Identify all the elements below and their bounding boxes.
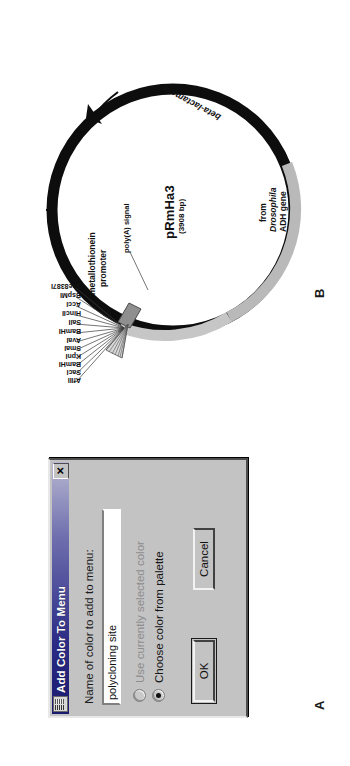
dialog-body: Name of color to add to menu: polyclonin… (69, 460, 244, 716)
restriction-site-label-group: AflII SacI BamHI KpnI SmaI AvaI BamHI Sa… (10, 238, 88, 388)
radio-use-current-color[interactable]: Use currently selected color (133, 541, 146, 702)
restriction-site-label: AccI (66, 301, 81, 308)
restriction-site-label: AvaI (66, 337, 81, 344)
restriction-site-label: AflII (68, 377, 81, 384)
plasmid-name-label: pRmHa3 (162, 185, 177, 239)
radio-button-icon[interactable] (152, 689, 165, 702)
color-name-input[interactable]: polycloning site (102, 509, 121, 705)
restriction-site-label: HincII (62, 310, 81, 317)
restriction-site-label: KpnI (65, 353, 81, 360)
cancel-button[interactable]: Cancel (193, 528, 215, 590)
promoter-label-line1: metallothionein (87, 232, 97, 295)
radio-use-current-color-label: Use currently selected color (134, 541, 146, 683)
dialog-titlebar[interactable]: Add Color To Menu ✕ (52, 462, 69, 714)
adh-gene-label-line3: ADH gene (278, 191, 288, 232)
restriction-site-label: BamHI (59, 361, 81, 368)
ok-button[interactable]: OK (193, 640, 215, 702)
restriction-site-label: BamHI (59, 328, 81, 335)
figure-root: Add Color To Menu ✕ Name of color to add… (0, 0, 350, 766)
add-color-dialog[interactable]: Add Color To Menu ✕ Name of color to add… (48, 458, 248, 718)
radio-button-icon[interactable] (133, 689, 146, 702)
restriction-site-label: SacI (67, 369, 81, 376)
radio-choose-from-palette-label: Choose color from palette (153, 551, 165, 683)
dialog-title: Add Color To Menu (55, 586, 67, 693)
restriction-site-label: BspMI (60, 292, 81, 299)
panel-a-letter: A (312, 701, 327, 710)
polya-signal-label: poly(A) signal (122, 203, 131, 253)
restriction-site-label: SalI (69, 319, 81, 326)
panel-b-plasmid-map: AflII SacI BamHI KpnI SmaI AvaI BamHI Sa… (10, 10, 340, 410)
polya-signal-leader-line (130, 252, 148, 290)
radio-choose-from-palette[interactable]: Choose color from palette (152, 551, 165, 702)
figure-canvas: Add Color To Menu ✕ Name of color to add… (0, 0, 350, 766)
promoter-label-line2: promoter (98, 250, 108, 287)
adh-gene-label-line2: Drosophila (268, 188, 278, 232)
close-icon[interactable]: ✕ (53, 463, 69, 479)
adh-gene-label-line1: from (258, 203, 268, 222)
restriction-site-label: SmaI (64, 345, 81, 352)
palette-icon (53, 696, 68, 712)
panel-b-letter: B (312, 289, 327, 298)
panel-a-dialog-region: Add Color To Menu ✕ Name of color to add… (48, 460, 300, 718)
color-name-label: Name of color to add to menu: (83, 549, 95, 704)
restriction-site-label: Sse8387I (51, 283, 81, 290)
plasmid-size-label: (3908 bp) (177, 199, 186, 234)
